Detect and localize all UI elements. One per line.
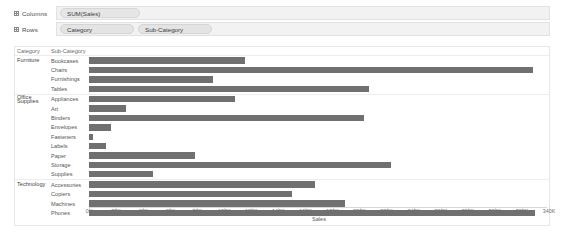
x-axis-tick-label: 120K [245, 208, 258, 214]
row-category-label: Technology [15, 182, 51, 187]
chart-row: Supplies [15, 170, 549, 179]
x-axis-tick-label: 20K [111, 208, 121, 214]
bar[interactable] [89, 200, 345, 206]
chart-row: TechnologyAccessories [15, 179, 549, 189]
x-axis-tick-label: 140K [272, 208, 285, 214]
columns-shelf-track[interactable]: SUM(Sales) [56, 6, 550, 20]
chart-row: Paper [15, 151, 549, 160]
row-subcategory-label: Storage [51, 162, 89, 168]
row-subcategory-label: Appliances [51, 96, 89, 102]
bar[interactable] [89, 96, 235, 102]
chart-row: Binders [15, 113, 549, 122]
x-axis-tick-label: 180K [326, 208, 339, 214]
bar[interactable] [89, 181, 315, 187]
bar-cell [89, 151, 549, 160]
bar[interactable] [89, 86, 369, 92]
chart-row: Envelopes [15, 123, 549, 132]
row-subcategory-label: Tables [51, 86, 89, 92]
rows-grid-icon [14, 27, 19, 32]
x-axis-tick-label: 60K [165, 208, 175, 214]
chart-row: Labels [15, 142, 549, 151]
bar-cell [89, 65, 549, 74]
bar[interactable] [89, 76, 213, 82]
x-axis-tick-label: 220K [380, 208, 393, 214]
chart-rows: FurnitureBookcasesChairsFurnishingsTable… [15, 56, 549, 218]
bar[interactable] [89, 67, 533, 73]
bar-cell [89, 104, 549, 113]
x-axis-tick-label: 260K [434, 208, 447, 214]
tableau-worksheet: Columns SUM(Sales) Rows Category Sub-Cat… [0, 0, 564, 235]
row-subcategory-label: Art [51, 106, 89, 112]
bar-cell [89, 113, 549, 122]
x-axis-tick-label: 40K [138, 208, 148, 214]
columns-label-text: Columns [22, 10, 47, 17]
chart-row: Storage [15, 160, 549, 169]
x-axis-line [89, 207, 547, 208]
row-category-label: OfficeSupplies [15, 95, 51, 104]
chart-row: Art [15, 104, 549, 113]
chart-row: Tables [15, 84, 549, 93]
bar-cell [89, 95, 549, 104]
rows-shelf-label: Rows [14, 26, 56, 33]
x-axis-tick-label: 300K [489, 208, 502, 214]
pill-category[interactable]: Category [60, 24, 134, 34]
header-category: Category [15, 48, 51, 54]
row-subcategory-label: Chairs [51, 67, 89, 73]
x-axis-tick-label: 320K [516, 208, 529, 214]
x-axis-title: Sales [312, 216, 326, 222]
row-subcategory-label: Envelopes [51, 124, 89, 130]
x-axis-tick-label: 200K [353, 208, 366, 214]
row-subcategory-label: Copiers [51, 191, 89, 197]
x-axis-tick-label: 340K [543, 208, 556, 214]
bar[interactable] [89, 105, 126, 111]
chart-row: OfficeSuppliesAppliances [15, 94, 549, 104]
bar[interactable] [89, 57, 245, 63]
x-axis-tick-label: 0K [86, 208, 93, 214]
bar[interactable] [89, 124, 111, 130]
row-subcategory-label: Accessories [51, 182, 89, 188]
row-subcategory-label: Binders [51, 115, 89, 121]
chart-row: Furnishings [15, 75, 549, 84]
row-subcategory-label: Labels [51, 143, 89, 149]
bar-cell [89, 142, 549, 151]
x-axis-tick-label: 80K [192, 208, 202, 214]
pill-sub-category[interactable]: Sub-Category [138, 24, 212, 34]
bar-cell [89, 189, 549, 198]
columns-shelf-label: Columns [14, 10, 56, 17]
bar[interactable] [89, 171, 153, 177]
row-subcategory-label: Bookcases [51, 58, 89, 64]
header-sub-category: Sub-Category [51, 48, 89, 54]
chart-panel: Category Sub-Category FurnitureBookcases… [14, 46, 550, 226]
rows-shelf[interactable]: Rows Category Sub-Category [14, 22, 550, 36]
pill-sum-sales[interactable]: SUM(Sales) [60, 8, 140, 18]
bar[interactable] [89, 191, 292, 197]
x-axis: 0K20K40K60K80K100K120K140K160K180K200K22… [15, 207, 549, 225]
bar[interactable] [89, 134, 93, 140]
bar-cell [89, 75, 549, 84]
bar-cell [89, 132, 549, 141]
chart-row: FurnitureBookcases [15, 56, 549, 65]
bar[interactable] [89, 115, 364, 121]
bar-cell [89, 56, 549, 65]
x-axis-tick-label: 240K [407, 208, 420, 214]
rows-shelf-track[interactable]: Category Sub-Category [56, 22, 550, 36]
columns-shelf[interactable]: Columns SUM(Sales) [14, 6, 550, 20]
bar-cell [89, 123, 549, 132]
bar[interactable] [89, 143, 106, 149]
bar-cell [89, 180, 549, 189]
bar-cell [89, 84, 549, 93]
bar[interactable] [89, 152, 195, 158]
row-subcategory-label: Furnishings [51, 76, 89, 82]
bar-cell [89, 170, 549, 179]
column-headers: Category Sub-Category [15, 47, 549, 56]
chart-row: Copiers [15, 189, 549, 198]
row-subcategory-label: Fasteners [51, 134, 89, 140]
rows-label-text: Rows [22, 26, 38, 33]
bar[interactable] [89, 162, 391, 168]
chart-row: Fasteners [15, 132, 549, 141]
row-subcategory-label: Supplies [51, 171, 89, 177]
bar-cell [89, 160, 549, 169]
row-subcategory-label: Paper [51, 153, 89, 159]
row-category-label: Furniture [15, 58, 51, 63]
columns-grid-icon [14, 11, 19, 16]
